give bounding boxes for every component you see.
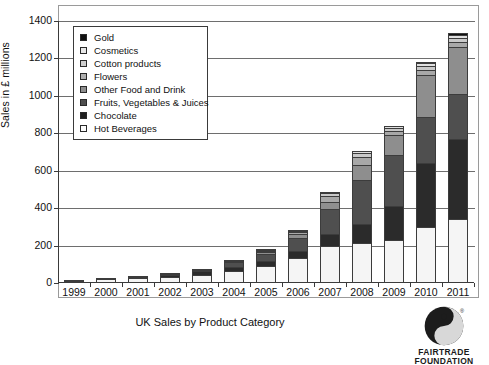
bar-segment <box>352 224 372 243</box>
bar-segment <box>160 277 180 283</box>
bar-segment <box>320 246 340 283</box>
bar-segment <box>416 163 436 227</box>
bar-segment <box>288 238 308 251</box>
legend-swatch-icon <box>80 125 87 132</box>
y-axis-tick-label: 0 <box>12 277 52 288</box>
bar-segment <box>256 266 276 283</box>
legend-label: Flowers <box>94 72 127 82</box>
bar-2010 <box>416 62 436 283</box>
y-axis-tick-label: 800 <box>12 127 52 138</box>
legend-swatch-icon <box>80 47 87 54</box>
legend-label: Hot Beverages <box>94 124 157 134</box>
bar-segment <box>320 202 340 209</box>
bar-2006 <box>288 230 308 283</box>
y-axis-tick-label: 1000 <box>12 90 52 101</box>
legend-label: Cosmetics <box>94 46 138 56</box>
bar-segment <box>448 219 468 283</box>
y-axis-tick-label: 600 <box>12 165 52 176</box>
bar-segment <box>288 258 308 283</box>
bar-2003 <box>192 269 212 283</box>
legend-swatch-icon <box>80 86 87 93</box>
bar-2000 <box>96 278 116 283</box>
chart-legend: GoldCosmeticsCotton productsFlowersOther… <box>73 26 208 140</box>
legend-item[interactable]: Gold <box>80 31 202 44</box>
legend-item[interactable]: Hot Beverages <box>80 122 202 135</box>
logo-line-2: FOUNDATION <box>404 357 484 365</box>
bar-segment <box>320 209 340 234</box>
bar-segment <box>224 271 244 283</box>
legend-label: Other Food and Drink <box>94 85 185 95</box>
fairtrade-mark-icon: ® <box>423 305 465 347</box>
legend-swatch-icon <box>80 60 87 67</box>
legend-swatch-icon <box>80 34 87 41</box>
legend-swatch-icon <box>80 73 87 80</box>
bar-2004 <box>224 260 244 283</box>
y-axis-tick-label: 200 <box>12 240 52 251</box>
chart-title: UK Sales by Product Category <box>0 316 420 328</box>
legend-label: Fruits, Vegetables & Juices <box>94 98 209 108</box>
y-axis-tick <box>54 283 59 284</box>
svg-text:®: ® <box>460 308 464 314</box>
legend-label: Chocolate <box>94 111 137 121</box>
bar-segment <box>192 275 212 283</box>
bar-segment <box>128 278 148 283</box>
legend-label: Cotton products <box>94 59 161 69</box>
bar-segment <box>448 139 468 219</box>
bar-segment <box>384 240 404 283</box>
legend-label: Gold <box>94 33 114 43</box>
legend-item[interactable]: Cotton products <box>80 57 202 70</box>
x-axis-label-2011: 2011 <box>438 286 478 298</box>
y-axis-tick-label: 400 <box>12 202 52 213</box>
bar-segment <box>448 94 468 139</box>
bar-segment <box>384 135 404 156</box>
bar-segment <box>64 281 84 283</box>
bar-segment <box>352 180 372 224</box>
legend-item[interactable]: Chocolate <box>80 109 202 122</box>
bar-2001 <box>128 276 148 283</box>
bar-2008 <box>352 151 372 283</box>
legend-item[interactable]: Other Food and Drink <box>80 83 202 96</box>
bar-segment <box>384 206 404 240</box>
legend-item[interactable]: Flowers <box>80 70 202 83</box>
bar-segment <box>416 227 436 283</box>
legend-swatch-icon <box>80 112 87 119</box>
bar-2009 <box>384 126 404 283</box>
chart-container: Sales in £ millions 02004006008001000120… <box>0 0 489 365</box>
bar-segment <box>320 234 340 245</box>
bar-2002 <box>160 273 180 283</box>
bar-2007 <box>320 192 340 283</box>
bar-segment <box>352 243 372 283</box>
bar-segment <box>288 251 308 258</box>
legend-swatch-icon <box>80 99 87 106</box>
bar-segment <box>352 165 372 180</box>
bar-segment <box>448 47 468 94</box>
bar-1999 <box>64 280 84 283</box>
y-axis-tick-label: 1200 <box>12 52 52 63</box>
bar-segment <box>416 117 436 164</box>
y-axis-tick-label: 1400 <box>12 15 52 26</box>
bar-segment <box>384 155 404 206</box>
bar-segment <box>96 279 116 283</box>
legend-item[interactable]: Fruits, Vegetables & Juices <box>80 96 202 109</box>
bar-segment <box>256 254 276 261</box>
fairtrade-logo: ® FAIRTRADE FOUNDATION <box>404 305 484 365</box>
bar-2005 <box>256 249 276 283</box>
y-axis-title: Sales in £ millions <box>0 42 11 128</box>
legend-item[interactable]: Cosmetics <box>80 44 202 57</box>
bar-segment <box>352 157 372 164</box>
bar-2011 <box>448 33 468 283</box>
bar-segment <box>416 75 436 116</box>
